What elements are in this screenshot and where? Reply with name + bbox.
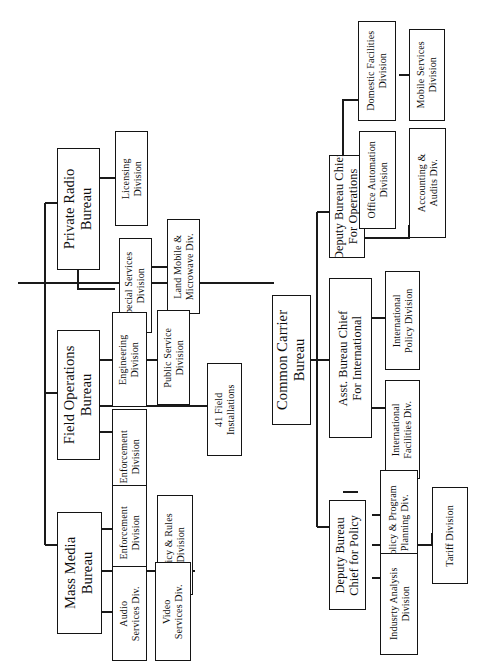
node-deputy-bureau-chief-policy[interactable]: Deputy BureauChief for Policy (329, 500, 366, 610)
node-tariff-division[interactable]: Tariff Division (432, 487, 468, 584)
node-mass-media-bureau[interactable]: Mass MediaBureau (57, 512, 102, 634)
node-licensing-division[interactable]: LicensingDivision (115, 131, 148, 226)
node-asst-bureau-chief-international[interactable]: Asst. Bureau ChiefFor International (329, 278, 372, 438)
node-label: Asst. Bureau ChiefFor International (336, 310, 365, 406)
node-label: Land Mobile &Microwave Div. (172, 233, 196, 300)
node-video-services-div[interactable]: VideoServices Div. (155, 562, 191, 661)
node-label: Special ServicesDivision (124, 251, 148, 319)
node-label: EngineeringDivision (118, 334, 142, 384)
node-engineering-division[interactable]: EngineeringDivision (112, 312, 147, 407)
node-label: InternationalFacilities Div. (391, 400, 415, 458)
node-label: LicensingDivision (120, 158, 144, 199)
organization-chart: Private RadioBureau LicensingDivision Sp… (0, 0, 478, 662)
node-label: Mass MediaBureau (63, 537, 97, 609)
node-industry-analysis-division[interactable]: Indusrty AnalysisDivision (380, 553, 418, 655)
node-label: Field OperationsBureau (62, 346, 96, 445)
node-private-radio-bureau[interactable]: Private RadioBureau (57, 148, 100, 270)
node-label: Policy & ProgramPlanning Div. (387, 485, 411, 560)
node-domestic-facilities-division[interactable]: Domestic FacilitiesDivision (358, 21, 396, 121)
node-land-mobile-microwave-div[interactable]: Land Mobile &Microwave Div. (167, 219, 200, 314)
node-label: Accounting &Audits Div. (416, 154, 440, 213)
node-label: AudioServices Div. (118, 586, 142, 641)
node-label: Public ServiceDivision (162, 328, 186, 388)
node-audio-services-div[interactable]: AudioServices Div. (112, 566, 147, 661)
node-label: EnforcementDivision (118, 430, 142, 483)
node-label: VideoServices Div. (161, 584, 185, 639)
node-label: 41 FieldInstallations (213, 384, 237, 435)
node-label: Mobile ServicesDivision (415, 41, 439, 108)
node-mobile-services-division[interactable]: Mobile ServicesDivision (409, 29, 445, 121)
node-label: InternationalPolicy Division (391, 288, 415, 353)
node-international-facilities-div[interactable]: InternationalFacilities Div. (385, 380, 420, 479)
node-label: Office AutomationDivision (366, 141, 390, 218)
node-label: Private RadioBureau (62, 169, 96, 250)
node-international-policy-division[interactable]: InternationalPolicy Division (385, 271, 420, 370)
node-field-operations-bureau[interactable]: Field OperationsBureau (57, 330, 100, 460)
node-label: Common CarrierBureau (275, 310, 309, 410)
node-label: Deputy BureauChief for Policy (333, 515, 362, 596)
node-41-field-installations[interactable]: 41 FieldInstallations (207, 363, 242, 456)
node-accounting-audits-div[interactable]: Accounting &Audits Div. (409, 128, 446, 238)
node-common-carrier-bureau[interactable]: Common CarrierBureau (272, 295, 311, 425)
node-label: Tariff Division (444, 505, 456, 566)
node-label: EnforcementDivision (118, 506, 142, 559)
node-label: Deputy Bureau ChiefFor Operations (333, 155, 362, 258)
node-public-service-division[interactable]: Public ServiceDivision (157, 310, 190, 405)
node-label: Domestic FacilitiesDivision (365, 31, 389, 111)
node-office-automation-division[interactable]: Office AutomationDivision (359, 131, 396, 229)
node-label: Indusrty AnalysisDivision (387, 568, 411, 641)
